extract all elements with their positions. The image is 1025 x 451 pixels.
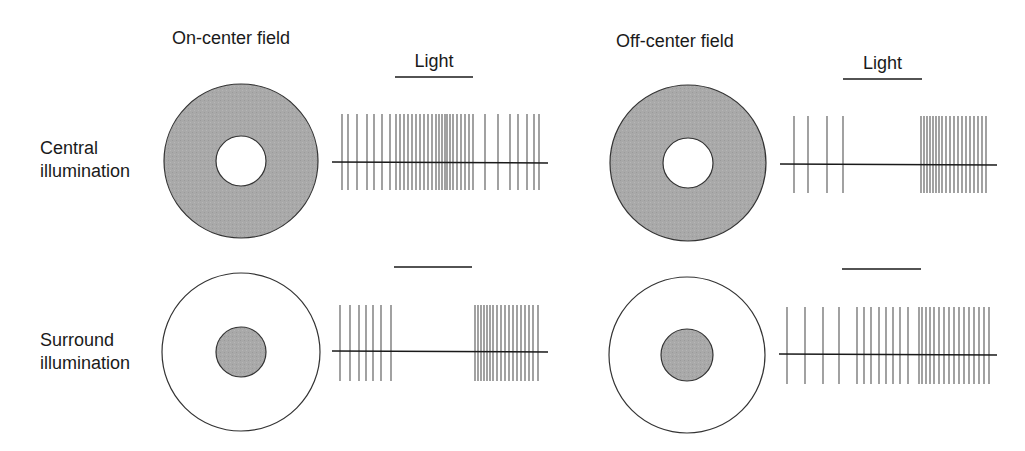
light-label: Light <box>863 53 902 73</box>
spike-train <box>794 116 986 193</box>
receptive-field-diagram: On-center field Off-center field Central… <box>0 0 1025 451</box>
panel-on-surround <box>162 267 548 431</box>
receptive-field-center <box>663 138 713 188</box>
diagram-canvas: On-center field Off-center field Central… <box>0 0 1025 451</box>
row-label-central-line1: Central <box>40 138 98 158</box>
off-center-header: Off-center field <box>616 31 734 51</box>
panel-off-surround <box>609 269 997 433</box>
trace-baseline <box>780 164 997 165</box>
panel-on-central: Light <box>164 51 548 238</box>
light-label: Light <box>414 51 453 71</box>
row-label-surround-line2: illumination <box>40 353 130 373</box>
receptive-field-center <box>661 329 713 381</box>
spike-train <box>342 114 539 190</box>
panels-group: LightLight <box>162 51 997 433</box>
spike-train <box>787 307 989 384</box>
on-center-header: On-center field <box>172 28 290 48</box>
receptive-field-center <box>216 327 266 377</box>
spike-train <box>340 305 538 381</box>
trace-baseline <box>332 351 548 352</box>
receptive-field-center <box>216 136 266 186</box>
trace-baseline <box>332 162 548 163</box>
row-label-central-line2: illumination <box>40 161 130 181</box>
row-label-surround-line1: Surround <box>40 330 114 350</box>
panel-off-central: Light <box>610 53 997 241</box>
